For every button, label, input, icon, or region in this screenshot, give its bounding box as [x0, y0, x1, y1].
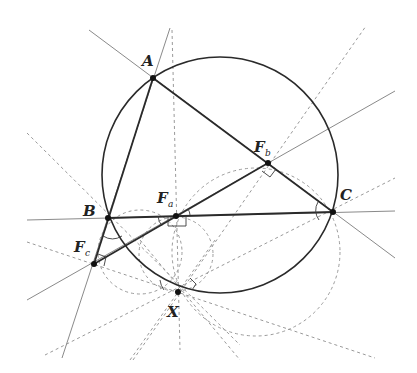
- label-x: X: [166, 303, 180, 321]
- dash-line-x-diag-left: [130, 240, 215, 360]
- dash-line-vertical: [172, 30, 180, 350]
- point-x: [175, 289, 181, 295]
- label-fa-sub: a: [168, 199, 173, 209]
- dash-line-x-diag-right: [140, 240, 240, 360]
- construction-circles: [98, 168, 340, 336]
- point-fa: [173, 213, 179, 219]
- side-ac: [153, 78, 333, 212]
- angle-arc-fa-right: [188, 209, 190, 215]
- simson-segment: [94, 163, 268, 264]
- point-c: [330, 209, 336, 215]
- right-angle-fb: [262, 169, 276, 177]
- dash-line-xc: [45, 178, 395, 355]
- point-fc: [91, 261, 97, 267]
- labels: A B C X F a F b F c: [73, 52, 352, 321]
- point-fb: [265, 160, 271, 166]
- circumcircle: [102, 57, 338, 293]
- label-b: B: [82, 202, 96, 220]
- label-fb-sub: b: [265, 148, 271, 158]
- triangle: [94, 78, 333, 264]
- dash-line-xfc: [27, 242, 375, 358]
- point-b: [105, 215, 111, 221]
- label-c: C: [340, 186, 352, 204]
- angle-arc-c: [316, 202, 319, 220]
- circle-xc: [172, 168, 340, 336]
- simson-line-diagram: A B C X F a F b F c: [0, 0, 417, 373]
- circle-xfa-small: [139, 217, 213, 291]
- label-fc-sub: c: [85, 248, 90, 258]
- point-a: [150, 75, 156, 81]
- label-a: A: [140, 52, 154, 70]
- side-bc: [108, 212, 333, 218]
